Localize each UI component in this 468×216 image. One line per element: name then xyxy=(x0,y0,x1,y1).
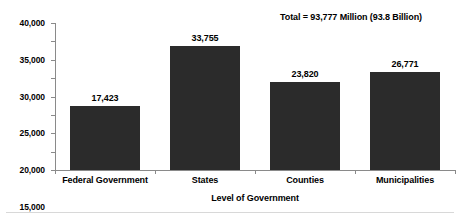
y-tick: 25,000 xyxy=(51,78,55,79)
y-tick-label: 15,000 xyxy=(20,202,45,212)
x-tick xyxy=(155,170,156,174)
y-tick: 5,000 xyxy=(51,152,55,153)
x-tick xyxy=(355,170,356,174)
x-tick xyxy=(255,170,256,174)
y-tick: 35,000 xyxy=(51,41,55,42)
y-tick-label: 20,000 xyxy=(20,165,45,175)
y-tick-label: 30,000 xyxy=(20,92,45,102)
bar xyxy=(370,72,440,170)
y-tick: 15,000 xyxy=(51,115,55,116)
plot-area: 05,00010,00015,00020,00025,00030,00035,0… xyxy=(55,23,455,170)
category-label: Counties xyxy=(286,175,324,185)
y-axis-line xyxy=(55,23,56,170)
category-label: Federal Government xyxy=(62,175,148,185)
bar-value-label: 33,755 xyxy=(192,33,219,43)
category-label: States xyxy=(192,175,218,185)
y-tick: 30,000 xyxy=(51,60,55,61)
x-tick xyxy=(55,170,56,174)
x-axis-title: Level of Government xyxy=(55,193,455,203)
bar-value-label: 26,771 xyxy=(392,59,419,69)
y-tick: 20,000 xyxy=(51,97,55,98)
x-tick xyxy=(455,170,456,174)
scan-artifact-line xyxy=(6,212,454,213)
bar xyxy=(70,106,140,170)
total-annotation: Total = 93,777 Million (93.8 Billion) xyxy=(238,12,464,22)
y-tick: 40,000 xyxy=(51,23,55,24)
y-tick-label: 40,000 xyxy=(20,18,45,28)
bar xyxy=(270,82,340,170)
bar-value-label: 17,423 xyxy=(92,93,119,103)
bar xyxy=(170,46,240,170)
y-tick-label: 35,000 xyxy=(20,55,45,65)
category-label: Municipalities xyxy=(376,175,434,185)
y-tick-label: 25,000 xyxy=(20,128,45,138)
y-tick: 10,000 xyxy=(51,133,55,134)
bar-chart: Total = 93,777 Million (93.8 Billion) 05… xyxy=(0,0,468,216)
bar-value-label: 23,820 xyxy=(292,69,319,79)
